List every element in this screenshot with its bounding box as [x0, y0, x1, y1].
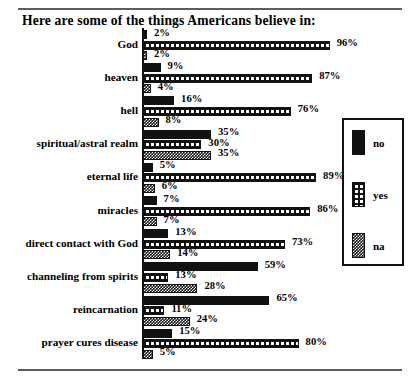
bar-value-label: 35% — [218, 147, 239, 158]
bar-value-label: 16% — [181, 93, 202, 104]
category-label: eternal life — [0, 170, 138, 182]
category-label: direct contact with God — [0, 237, 138, 249]
bar-value-label: 11% — [171, 303, 192, 314]
legend-label-no: no — [373, 137, 385, 149]
bar-no — [143, 229, 168, 238]
bar-na — [143, 250, 170, 259]
category-label: channeling from spirits — [0, 270, 138, 282]
category-label: hell — [0, 104, 138, 116]
category-label: God — [0, 38, 138, 50]
bar-row: 80% — [143, 339, 403, 348]
bar-na — [143, 51, 147, 60]
bar-group: God2%96%2% — [0, 30, 417, 60]
checkered-gray-swatch — [352, 233, 365, 258]
bar-row: 96% — [143, 41, 403, 50]
bar-value-label: 2% — [154, 27, 170, 38]
bar-group: heaven9%87%4% — [0, 63, 417, 93]
bar-row: 16% — [143, 96, 403, 105]
bar-no — [143, 96, 174, 105]
bar-na — [143, 284, 197, 293]
top-divider-rule — [18, 8, 402, 10]
bar-value-label: 9% — [168, 60, 184, 71]
bar-value-label: 65% — [276, 292, 297, 303]
bar-value-label: 6% — [162, 180, 178, 191]
bar-value-label: 30% — [208, 137, 229, 148]
bar-value-label: 5% — [160, 159, 176, 170]
bar-row: 76% — [143, 107, 403, 116]
bar-no — [143, 262, 258, 271]
bar-no — [143, 329, 172, 338]
bar-na — [143, 151, 211, 160]
category-label: spiritual/astral realm — [0, 137, 138, 149]
white-dot-on-black-swatch — [352, 182, 365, 207]
bar-value-label: 8% — [166, 114, 182, 125]
bar-na — [143, 350, 153, 359]
bar-yes — [143, 140, 201, 149]
bar-value-label: 87% — [319, 70, 340, 81]
bar-row: 28% — [143, 284, 403, 293]
bar-row: 9% — [143, 63, 403, 72]
bar-value-label: 96% — [337, 37, 358, 48]
bar-yes — [143, 41, 330, 50]
legend-label-yes: yes — [373, 189, 388, 201]
legend-box: noyesna — [342, 118, 404, 266]
bar-value-label: 28% — [204, 280, 225, 291]
bar-no — [143, 196, 157, 205]
bar-na — [143, 217, 157, 226]
bar-yes — [143, 240, 285, 249]
bar-value-label: 4% — [158, 81, 174, 92]
category-label: miracles — [0, 204, 138, 216]
bar-row: 11% — [143, 306, 403, 315]
bar-value-label: 86% — [317, 203, 338, 214]
bottom-divider-rule — [18, 369, 402, 371]
bar-group: reincarnation65%11%24% — [0, 296, 417, 326]
bar-no — [143, 30, 147, 39]
category-label: reincarnation — [0, 303, 138, 315]
bar-value-label: 13% — [175, 269, 196, 280]
bar-value-label: 80% — [306, 336, 327, 347]
bar-value-label: 24% — [197, 313, 218, 324]
legend-label-na: na — [373, 240, 385, 252]
bar-no — [143, 163, 153, 172]
bar-value-label: 76% — [298, 103, 319, 114]
bar-group: prayer cures disease15%80%5% — [0, 329, 417, 359]
bar-row: 15% — [143, 329, 403, 338]
bar-na — [143, 184, 155, 193]
bar-no — [143, 63, 161, 72]
bar-value-label: 35% — [218, 126, 239, 137]
bar-value-label: 59% — [265, 259, 286, 270]
solid-black-swatch — [352, 130, 365, 155]
bar-value-label: 7% — [164, 193, 180, 204]
bar-value-label: 73% — [292, 236, 313, 247]
bar-row: 5% — [143, 350, 403, 359]
bar-value-label: 7% — [164, 214, 180, 225]
bar-na — [143, 84, 151, 93]
bar-row: 13% — [143, 273, 403, 282]
bar-yes — [143, 273, 168, 282]
bar-row: 87% — [143, 74, 403, 83]
bar-no — [143, 296, 269, 305]
category-label: prayer cures disease — [0, 336, 138, 348]
bar-na — [143, 118, 159, 127]
bar-value-label: 15% — [179, 325, 200, 336]
bar-value-label: 5% — [160, 346, 176, 357]
bar-value-label: 2% — [154, 48, 170, 59]
bar-row: 2% — [143, 30, 403, 39]
category-label: heaven — [0, 71, 138, 83]
bar-value-label: 13% — [175, 226, 196, 237]
bar-group: channeling from spirits59%13%28% — [0, 262, 417, 292]
bar-value-label: 14% — [177, 247, 198, 258]
bar-yes — [143, 306, 164, 315]
bar-no — [143, 130, 211, 139]
